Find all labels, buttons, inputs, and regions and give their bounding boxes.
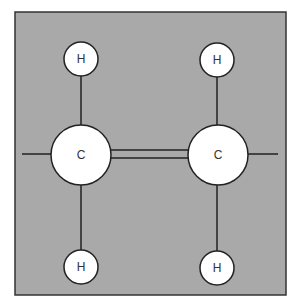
atom-hydrogen-bottom-left: H: [64, 250, 98, 284]
atom-label: H: [77, 52, 86, 66]
molecule-diagram: C C H H H H: [0, 0, 300, 307]
atom-label: H: [213, 261, 222, 275]
atom-carbon-left: C: [51, 125, 111, 185]
atom-hydrogen-top-left: H: [64, 42, 98, 76]
atom-hydrogen-top-right: H: [200, 43, 234, 77]
atom-label: H: [77, 260, 86, 274]
atom-label: C: [77, 148, 86, 162]
atom-label: C: [214, 148, 223, 162]
atom-carbon-right: C: [188, 125, 248, 185]
atom-hydrogen-bottom-right: H: [200, 251, 234, 285]
atom-label: H: [213, 53, 222, 67]
